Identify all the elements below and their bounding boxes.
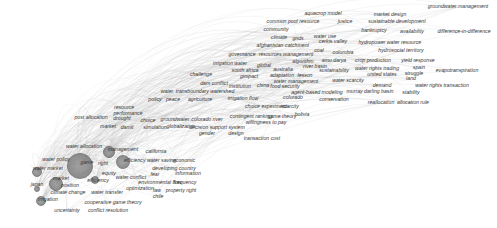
keyword-label[interactable]: willingness to pay bbox=[246, 120, 287, 125]
keyword-label[interactable]: evapotranspiration bbox=[436, 68, 479, 73]
keyword-label[interactable]: difference-in-difference bbox=[437, 29, 490, 34]
keyword-label[interactable]: sustainability bbox=[319, 68, 349, 73]
keyword-label[interactable]: colorado bbox=[283, 95, 303, 100]
keyword-label[interactable]: efficiency bbox=[87, 178, 109, 183]
keyword-label[interactable]: choice bbox=[141, 118, 156, 123]
keyword-label[interactable]: water market bbox=[33, 166, 63, 171]
keyword-label[interactable]: hydropower bbox=[358, 40, 385, 45]
keyword-label[interactable]: japan bbox=[31, 182, 44, 187]
network-map[interactable]: groundwater managementaquacrop modelmark… bbox=[0, 0, 497, 228]
keyword-label[interactable]: fear bbox=[151, 172, 160, 177]
keyword-label[interactable]: policy bbox=[148, 97, 161, 102]
keyword-label[interactable]: conservation bbox=[319, 97, 348, 102]
keyword-label[interactable]: california bbox=[146, 149, 167, 154]
keyword-label[interactable]: groundwater bbox=[161, 117, 190, 122]
keyword-label[interactable]: irrigation flow bbox=[228, 96, 259, 101]
keyword-label[interactable]: crop production bbox=[355, 58, 391, 63]
keyword-label[interactable]: colombia bbox=[333, 50, 354, 55]
keyword-label[interactable]: water rights transaction bbox=[415, 83, 469, 88]
keyword-label[interactable]: market bbox=[100, 124, 116, 129]
keyword-label[interactable]: water transfer bbox=[91, 190, 123, 195]
keyword-label[interactable]: catchment bbox=[285, 43, 309, 48]
keyword-label[interactable]: position bbox=[61, 183, 79, 188]
keyword-label[interactable]: groundwater management bbox=[428, 4, 489, 9]
keyword-label[interactable]: sustainable development bbox=[368, 19, 425, 24]
keyword-label[interactable]: conflict resolution bbox=[88, 208, 128, 213]
keyword-label[interactable]: market bbox=[53, 176, 69, 181]
keyword-label[interactable]: information bbox=[175, 171, 201, 176]
keyword-label[interactable]: availability bbox=[400, 29, 424, 34]
keyword-label[interactable]: water scarcity bbox=[332, 78, 364, 83]
keyword-label[interactable]: management bbox=[108, 147, 138, 152]
keyword-label[interactable]: climate bbox=[271, 35, 287, 40]
keyword-label[interactable]: united states bbox=[367, 72, 396, 77]
keyword-label[interactable]: climate change bbox=[51, 190, 86, 195]
keyword-label[interactable]: market design bbox=[374, 12, 407, 17]
keyword-label[interactable]: peace bbox=[166, 97, 180, 102]
keyword-label[interactable]: bankruptcy bbox=[361, 28, 386, 33]
keyword-label[interactable]: allocation rule bbox=[397, 100, 429, 105]
keyword-label[interactable]: water allocation bbox=[66, 144, 102, 149]
keyword-label[interactable]: game bbox=[81, 160, 94, 165]
keyword-label[interactable]: aquacrop model bbox=[304, 11, 341, 16]
keyword-label[interactable]: cooperative game theory bbox=[84, 200, 141, 205]
keyword-label[interactable]: grids bbox=[292, 36, 303, 41]
keyword-label[interactable]: challenge bbox=[190, 72, 212, 77]
keyword-label[interactable]: justice bbox=[338, 19, 353, 24]
keyword-label[interactable]: common pool resource bbox=[267, 19, 320, 24]
keyword-label[interactable]: agriculture bbox=[188, 97, 212, 102]
keyword-label[interactable]: efficiency water saving bbox=[124, 158, 176, 163]
keyword-label[interactable]: design bbox=[228, 131, 243, 136]
keyword-label[interactable]: irrigation water bbox=[213, 61, 247, 66]
keyword-label[interactable]: property right bbox=[166, 188, 197, 193]
keyword-label[interactable]: water bbox=[161, 89, 174, 94]
keyword-label[interactable]: drought bbox=[113, 116, 131, 121]
keyword-label[interactable]: coal bbox=[314, 48, 324, 53]
keyword-label[interactable]: simulation bbox=[143, 125, 166, 130]
keyword-label[interactable]: china bbox=[257, 83, 269, 88]
keyword-label[interactable]: optimization bbox=[126, 186, 154, 191]
keyword-label[interactable]: right bbox=[98, 161, 108, 166]
keyword-label[interactable]: post allocation bbox=[74, 115, 107, 120]
keyword-label[interactable]: bolivia bbox=[295, 112, 310, 117]
keyword-label[interactable]: stability bbox=[402, 90, 419, 95]
keyword-label[interactable]: resources management bbox=[259, 52, 314, 57]
keyword-label[interactable]: damit bbox=[121, 125, 134, 130]
keyword-label[interactable]: frequency bbox=[174, 180, 197, 185]
keyword-label[interactable]: economic bbox=[173, 158, 195, 163]
keyword-label[interactable]: murray darling basin bbox=[347, 89, 394, 94]
keyword-label[interactable]: transboundary watershed bbox=[176, 89, 235, 94]
keyword-label[interactable]: water resource bbox=[387, 40, 421, 45]
keyword-label[interactable]: transaction cost bbox=[244, 136, 280, 141]
keyword-label[interactable]: dam conflict bbox=[200, 81, 228, 86]
keyword-label[interactable]: yield response bbox=[401, 58, 434, 63]
keyword-label[interactable]: reallocation bbox=[368, 100, 395, 105]
keyword-label[interactable]: governance bbox=[228, 52, 255, 57]
keyword-label[interactable]: gimpact bbox=[240, 74, 258, 79]
keyword-label[interactable]: water policy bbox=[42, 157, 69, 162]
keyword-label[interactable]: global bbox=[257, 63, 271, 68]
node-game-theory[interactable] bbox=[67, 153, 93, 179]
keyword-label[interactable]: scarcity bbox=[281, 104, 299, 109]
keyword-label[interactable]: afghanistan bbox=[257, 43, 284, 48]
keyword-label[interactable]: uncertainty bbox=[54, 208, 79, 213]
keyword-label[interactable]: cerkis valley bbox=[319, 39, 347, 44]
keyword-label[interactable]: community bbox=[263, 27, 288, 32]
keyword-label[interactable]: hydrosocial territory bbox=[378, 48, 423, 53]
keyword-label[interactable]: land bbox=[406, 76, 416, 81]
keyword-label[interactable]: equity bbox=[102, 171, 116, 176]
keyword-label[interactable]: irrigation bbox=[38, 197, 58, 202]
keyword-label[interactable]: chile bbox=[153, 194, 164, 199]
keyword-label[interactable]: colorado river bbox=[191, 117, 222, 122]
keyword-label[interactable]: gender bbox=[199, 131, 215, 136]
